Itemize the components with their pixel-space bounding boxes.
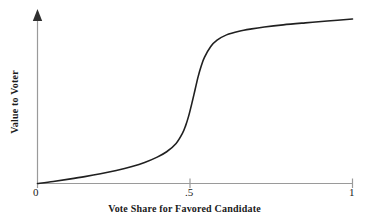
value-to-voter-curve (38, 19, 353, 184)
y-axis-title: Value to Voter (9, 70, 20, 134)
x-tick-label-one: 1 (349, 187, 355, 198)
x-tick-label-half: .5 (185, 187, 193, 198)
y-axis-arrow-icon (33, 9, 42, 21)
y-axis-title-wrapper: Value to Voter (6, 52, 22, 152)
x-tick-label-0: 0 (33, 187, 39, 198)
chart-container: 0 .5 1 Vote Share for Favored Candidate … (0, 0, 369, 224)
x-axis-title: Vote Share for Favored Candidate (0, 203, 369, 214)
